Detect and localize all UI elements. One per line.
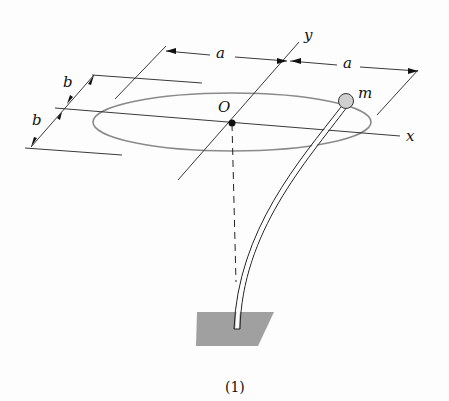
rod-outer (234, 107, 341, 329)
a-ref-right (377, 70, 418, 115)
origin-point (229, 120, 236, 127)
label-mass: m (358, 86, 372, 101)
label-origin: O (218, 100, 230, 115)
label-x-axis: x (406, 129, 414, 144)
rod-inner (240, 107, 347, 329)
label-a-left: a (216, 46, 225, 61)
a-ref-left (115, 46, 166, 99)
b-ref-bottom (25, 148, 122, 155)
vertical-dashed-line (232, 124, 236, 282)
label-a-right: a (343, 56, 352, 71)
label-b-bottom: b (32, 113, 42, 128)
figure-caption: (1) (225, 380, 245, 394)
diagram-canvas: a a b b O y x m (1) (0, 0, 449, 401)
b-ref-top (92, 75, 202, 83)
mass-ball (339, 94, 354, 109)
label-y-axis: y (304, 28, 312, 43)
label-b-top: b (63, 75, 73, 90)
